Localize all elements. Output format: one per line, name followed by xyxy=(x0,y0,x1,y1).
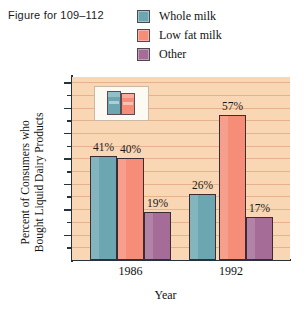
legend-item-low-fat-milk: Low fat milk xyxy=(137,26,222,45)
low-fat-milk-carton xyxy=(121,93,135,115)
milk-cartons-inset xyxy=(94,86,149,121)
legend-label-whole-milk: Whole milk xyxy=(159,9,216,24)
bar-value-label: 19% xyxy=(147,197,168,209)
gridline xyxy=(72,82,290,83)
chart-legend: Whole milk Low fat milk Other xyxy=(137,7,222,64)
bar-1992-low-fat-milk xyxy=(219,115,246,260)
whole-milk-carton xyxy=(107,91,121,115)
bar-value-label: 41% xyxy=(93,141,114,153)
x-axis-title-text: Year xyxy=(154,288,176,302)
carton-strip xyxy=(123,102,132,105)
legend-swatch-other xyxy=(137,48,150,61)
x-group-label-1992: 1992 xyxy=(219,264,243,279)
bar-1986-whole-milk xyxy=(90,156,117,260)
x-group-label-1986: 1986 xyxy=(119,264,143,279)
plot-area: 41%40%19%26%57%17% xyxy=(72,77,290,260)
bar-value-label: 26% xyxy=(192,179,213,191)
bar-value-label: 40% xyxy=(120,143,141,155)
carton-cap xyxy=(122,94,134,98)
figure-root: Figure for 109–112 Whole milk Low fat mi… xyxy=(0,0,307,313)
bar-value-label: 57% xyxy=(222,100,243,112)
bar-1992-other xyxy=(246,217,273,260)
bar-1992-whole-milk xyxy=(189,194,216,260)
legend-swatch-whole-milk xyxy=(137,10,150,23)
carton-cap xyxy=(108,92,120,97)
x-axis-title: Year xyxy=(0,288,307,303)
y-axis-ticks: 10%20%30%40%50%60%70% xyxy=(0,0,72,313)
gridline xyxy=(72,133,290,134)
legend-label-low-fat-milk: Low fat milk xyxy=(159,28,222,43)
bar-1986-other xyxy=(144,212,171,260)
legend-item-whole-milk: Whole milk xyxy=(137,7,222,26)
bar-1986-low-fat-milk xyxy=(117,158,144,260)
legend-swatch-low-fat-milk xyxy=(137,29,150,42)
bar-value-label: 17% xyxy=(249,202,270,214)
legend-label-other: Other xyxy=(159,47,186,62)
carton-strip xyxy=(109,101,118,105)
legend-item-other: Other xyxy=(137,45,222,64)
